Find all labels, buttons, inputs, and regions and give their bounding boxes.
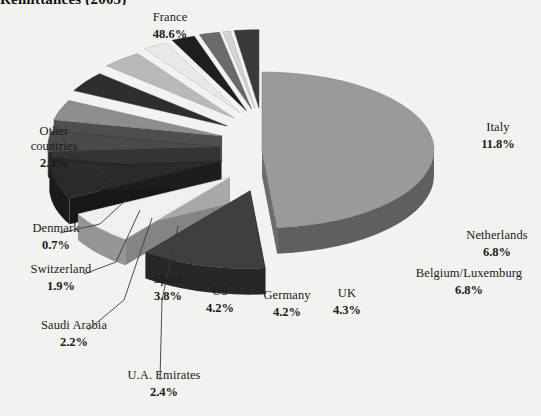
label-germany: Germany 4.2% [251, 288, 323, 320]
label-saudi-pct: 2.2% [26, 335, 122, 350]
label-denmark-pct: 0.7% [16, 238, 96, 253]
label-other-countries: Other countries 2.3% [12, 124, 96, 170]
label-belgium: Belgium/Luxemburg 6.8% [398, 266, 540, 298]
label-switzerland-name: Switzerland [14, 262, 108, 277]
label-uk: UK 4.3% [322, 286, 372, 318]
label-other-name-line2: countries [12, 139, 96, 154]
label-us-pct: 4.2% [196, 301, 244, 316]
pie-chart-figure: Remittances (2003) France 48.6% Italy 11… [0, 0, 541, 416]
label-other-name-line1: Other [12, 124, 96, 139]
label-spain-pct: 3.8% [140, 289, 196, 304]
label-spain-name: Spain [140, 272, 196, 287]
label-germany-name: Germany [251, 288, 323, 303]
label-saudi-name: Saudi Arabia [26, 318, 122, 333]
label-italy-name: Italy [465, 120, 531, 135]
label-us-name: US [196, 284, 244, 299]
label-belgium-name: Belgium/Luxemburg [398, 266, 540, 281]
label-switzerland: Switzerland 1.9% [14, 262, 108, 294]
label-uae: U.A. Emirates 2.4% [112, 368, 216, 400]
label-france-pct: 48.6% [122, 27, 218, 42]
label-france-name: France [122, 10, 218, 25]
label-italy-pct: 11.8% [465, 137, 531, 152]
label-spain: Spain 3.8% [140, 272, 196, 304]
pie-chart-graphic [0, 0, 541, 416]
label-france: France 48.6% [122, 10, 218, 42]
label-uae-pct: 2.4% [112, 385, 216, 400]
pie-slice-france [262, 72, 434, 254]
label-belgium-pct: 6.8% [398, 283, 540, 298]
label-germany-pct: 4.2% [251, 305, 323, 320]
label-netherlands-pct: 6.8% [455, 245, 539, 260]
label-italy: Italy 11.8% [465, 120, 531, 152]
label-netherlands: Netherlands 6.8% [455, 228, 539, 260]
label-denmark: Denmark 0.7% [16, 221, 96, 253]
label-us: US 4.2% [196, 284, 244, 316]
label-uk-pct: 4.3% [322, 303, 372, 318]
label-uk-name: UK [322, 286, 372, 301]
pie-slice-other-countries [234, 30, 259, 108]
label-uae-name: U.A. Emirates [112, 368, 216, 383]
label-saudi: Saudi Arabia 2.2% [26, 318, 122, 350]
label-denmark-name: Denmark [16, 221, 96, 236]
pie-slices [48, 30, 434, 295]
label-switzerland-pct: 1.9% [14, 279, 108, 294]
label-other-pct: 2.3% [12, 156, 96, 171]
label-netherlands-name: Netherlands [455, 228, 539, 243]
